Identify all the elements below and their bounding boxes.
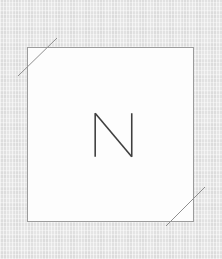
glyph-diagonal (95, 113, 132, 156)
artboard[interactable] (27, 47, 194, 222)
canvas-stage (0, 0, 222, 259)
letter-n-glyph (28, 48, 193, 221)
